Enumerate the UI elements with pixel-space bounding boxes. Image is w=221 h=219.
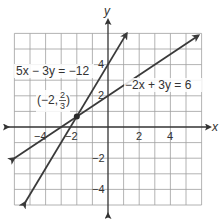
tick-y-4: 4 <box>98 58 104 70</box>
y-axis-label: y <box>103 4 111 18</box>
point-label-suffix: ) <box>66 93 70 107</box>
equation-label-2: −2x + 3y = 6 <box>125 78 192 92</box>
point-label-denominator: 3 <box>60 101 65 111</box>
point-label-prefix: (−2, <box>37 93 58 107</box>
coordinate-plane: x y −4 −2 2 4 4 2 −2 −4 5x − 3y = −12 −2… <box>0 0 221 219</box>
tick-y-neg4: −4 <box>92 183 105 195</box>
point-label-numerator: 2 <box>60 90 65 100</box>
tick-y-neg2: −2 <box>92 152 105 164</box>
tick-x-4: 4 <box>167 130 173 142</box>
tick-x-2: 2 <box>136 130 142 142</box>
intersection-point <box>74 114 80 120</box>
x-axis-label: x <box>211 120 219 134</box>
equation-label-1: 5x − 3y = −12 <box>16 64 89 78</box>
